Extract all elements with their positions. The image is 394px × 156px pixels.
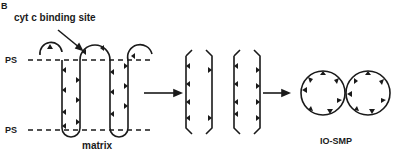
arrow-1-head-icon [174, 90, 181, 96]
ps-top-label: PS [5, 55, 17, 65]
io-smp-label: IO-SMP [320, 136, 352, 146]
io-smp-vesicle-2 [346, 71, 390, 115]
io-smp-vesicle-1 [301, 71, 345, 115]
binding-site-markers [47, 44, 386, 129]
ps-bottom-label: PS [5, 125, 17, 135]
matrix-label: matrix [82, 140, 112, 151]
panel-label: B [1, 1, 8, 11]
inner-membrane-folds [40, 42, 152, 137]
arrow-2-head-icon [282, 90, 289, 96]
membrane-fragment-1 [186, 50, 212, 134]
membrane-fragment-2 [234, 50, 260, 134]
mitochondrial-membrane-diagram [0, 0, 394, 156]
binding-site-pointer [58, 30, 80, 48]
binding-site-label: cyt c binding site [14, 12, 96, 23]
